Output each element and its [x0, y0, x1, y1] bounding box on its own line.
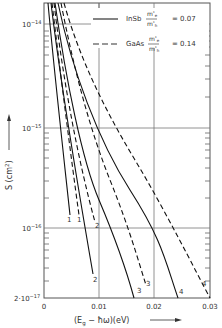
legend-insb-value: = 0.07 [172, 15, 196, 23]
ytick-1e-16: 10−16 [22, 223, 41, 233]
xtick-0.01: 0.01 [91, 303, 107, 311]
label-insb-1: 1 [67, 216, 71, 224]
xtick-0: 0 [42, 303, 46, 311]
ytick-1e-14: 10−14 [22, 19, 41, 29]
label-gaas-2: 2 [95, 222, 99, 230]
legend-insb-ratio: m*e m*h [146, 10, 158, 28]
legend-gaas-value: = 0.14 [172, 40, 196, 48]
ytick-2e-17: 2·10−17 [14, 293, 40, 303]
label-insb-4: 4 [179, 288, 184, 296]
legend-gaas: GaAs [126, 40, 145, 48]
xtick-0.03: 0.03 [202, 303, 218, 311]
label-gaas-3: 3 [146, 280, 150, 288]
y-axis-label: S (cm2) [4, 114, 14, 190]
chart: 10−14 10−15 10−16 2·10−17 0 0.01 0.02 0.… [0, 0, 222, 328]
x-axis-label: (Eg − ħω)(eV) [74, 316, 182, 327]
label-gaas-4: 4 [202, 280, 207, 288]
svg-text:(Eg − ħω)(eV): (Eg − ħω)(eV) [74, 316, 130, 327]
xtick-0.02: 0.02 [146, 303, 162, 311]
svg-text:S (cm2): S (cm2) [4, 160, 14, 190]
legend-insb: InSb [126, 15, 142, 23]
label-gaas-1: 1 [77, 216, 81, 224]
legend-gaas-ratio: m*e m*h [148, 35, 160, 53]
legend: InSb m*e m*h = 0.07 GaAs m*e m*h = 0.14 [91, 8, 209, 53]
label-insb-3: 3 [137, 287, 141, 295]
ytick-1e-15: 10−15 [22, 123, 41, 133]
curve-insb-1 [48, 3, 70, 215]
label-insb-2: 2 [93, 276, 97, 284]
